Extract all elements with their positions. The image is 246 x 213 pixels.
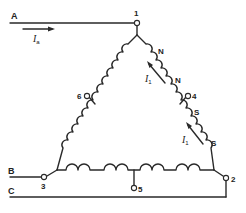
- pole-label-s-1: S: [194, 108, 200, 117]
- current-i1-label-upper: I1: [144, 73, 152, 85]
- terminal-5-label: 5: [138, 185, 143, 194]
- terminal-5-node: [131, 185, 136, 190]
- terminal-3-label: 3: [41, 182, 46, 191]
- terminal-2-lead: [214, 170, 223, 176]
- terminal-1-node: [134, 20, 139, 25]
- current-i1-label-lower: I1: [181, 134, 189, 146]
- line-a-label: A: [11, 11, 18, 21]
- delta-winding-diagram: A B C 1 2 3 4 5 6 N N S S Ia I1 I1: [0, 0, 246, 213]
- bottom-winding-coil: [57, 164, 214, 170]
- terminal-4-node: [185, 93, 190, 98]
- line-c-label: C: [8, 186, 15, 196]
- terminal-4-label: 4: [192, 92, 197, 101]
- left-winding-coil: [57, 35, 137, 170]
- pole-label-n-2: N: [175, 76, 181, 85]
- terminal-2-node: [223, 175, 228, 180]
- terminal-6-node: [84, 93, 89, 98]
- pole-label-n-1: N: [158, 47, 164, 56]
- pole-label-s-2: S: [211, 139, 217, 148]
- terminal-3-lead: [47, 170, 57, 176]
- terminal-1-label: 1: [134, 9, 139, 18]
- line-b-label: B: [8, 166, 15, 176]
- current-i1-arrow-lower: [188, 125, 203, 144]
- current-ia-label: Ia: [32, 33, 40, 45]
- terminal-6-label: 6: [77, 92, 82, 101]
- terminal-2-label: 2: [231, 175, 236, 184]
- right-winding-coil: [137, 35, 214, 170]
- arrowhead-ia: [48, 27, 55, 32]
- terminal-3-node: [41, 174, 46, 179]
